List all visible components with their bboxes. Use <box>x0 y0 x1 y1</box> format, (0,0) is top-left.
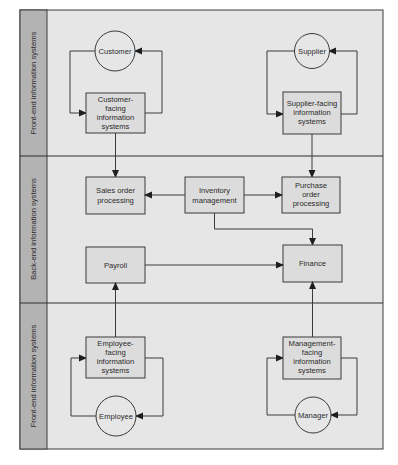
customer-facing-label: Customer- <box>98 95 134 104</box>
inventory-node <box>185 177 244 213</box>
manager-label: Manager <box>298 411 328 420</box>
inventory-label: Inventory <box>199 186 230 195</box>
management-facing-label: systems <box>298 366 326 375</box>
employee-facing-label: information <box>97 357 135 366</box>
employee-label: Employee <box>99 412 133 421</box>
supplier-facing-label: systems <box>298 117 326 126</box>
lane-label-frontend-bottom: Front-end information systems <box>29 325 38 428</box>
supplier-facing-label: Supplier-facing <box>287 99 338 108</box>
sales-order-label: Sales order <box>96 186 135 195</box>
management-facing-label: Management- <box>289 339 336 348</box>
employee-facing-label: Employee- <box>97 339 134 348</box>
supplier-label: Supplier <box>298 47 326 56</box>
customer-label: Customer <box>99 47 132 56</box>
supplier-facing-label: information <box>293 108 331 117</box>
lane-label-backend: Back-end information systems <box>29 178 38 280</box>
diagram-frame <box>20 10 383 449</box>
customer-facing-label: systems <box>102 122 130 131</box>
finance-label: Finance <box>299 259 326 268</box>
customer-facing-label: facing <box>105 104 125 113</box>
sales-order-label: processing <box>97 196 134 205</box>
customer-facing-label: information <box>97 113 135 122</box>
inventory-label: management <box>192 196 237 205</box>
diagram-canvas: Front-end information systems Back-end i… <box>0 0 398 465</box>
purchase-order-label: processing <box>293 199 330 208</box>
management-facing-label: facing <box>302 348 322 357</box>
payroll-label: Payroll <box>104 261 128 270</box>
employee-facing-label: facing <box>105 348 125 357</box>
management-facing-label: information <box>293 357 331 366</box>
lane-label-frontend-top: Front-end information systems <box>29 32 38 135</box>
employee-facing-label: systems <box>102 366 130 375</box>
purchase-order-label: Purchase <box>295 181 327 190</box>
purchase-order-label: order <box>302 190 320 199</box>
